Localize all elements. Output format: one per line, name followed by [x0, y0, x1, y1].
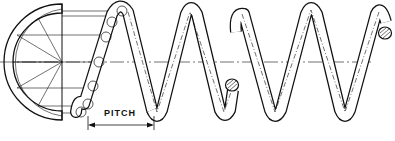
pitch-label: PITCH	[100, 108, 140, 118]
pitch-dimension	[88, 116, 154, 130]
helix-constructed-coil	[76, 6, 152, 117]
arrow-right-icon	[147, 123, 154, 128]
spring-diagram	[0, 0, 395, 141]
arrow-left-icon	[88, 123, 95, 128]
